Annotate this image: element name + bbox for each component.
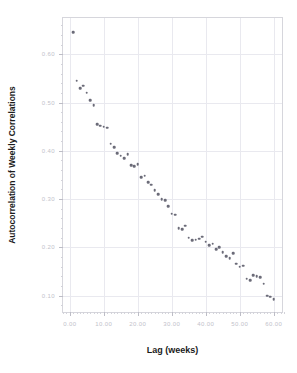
data-point [181,228,184,231]
x-axis-minor-tick [66,312,67,314]
x-axis-minor-tick [270,312,271,314]
y-tick-label: 0.50 [42,100,55,106]
x-axis-minor-tick [63,312,64,314]
data-point [133,165,136,168]
x-tick-label: 0.00 [63,321,76,327]
x-tick-label: 60.00 [265,321,282,327]
x-axis-minor-tick [199,312,200,314]
data-point [171,212,174,215]
x-tick-label: 30.00 [163,321,180,327]
data-point [208,244,211,247]
x-axis-minor-tick [189,312,190,314]
data-point [198,237,201,240]
data-point [154,189,157,192]
y-gridline [63,103,282,104]
x-axis-minor-tick [192,312,193,314]
data-point [235,262,238,265]
data-point [191,239,194,242]
x-axis-minor-tick [185,312,186,314]
data-point [245,277,248,280]
x-axis-minor-tick [80,312,81,314]
x-axis-minor-tick [145,312,146,314]
y-axis-minor-tick [61,286,63,287]
x-axis-minor-tick [236,312,237,314]
data-point [201,235,204,238]
x-axis-minor-tick [179,312,180,314]
data-point [225,255,228,258]
x-tick-label: 10.00 [95,321,112,327]
y-gridline [63,296,282,297]
data-point [174,213,177,216]
x-axis-minor-tick [247,312,248,314]
data-point [160,198,163,201]
data-point [232,252,235,255]
x-axis-tick [206,312,207,316]
y-axis-minor-tick [61,228,63,229]
y-axis-minor-tick [61,276,63,277]
x-axis-minor-tick [196,312,197,314]
y-axis-minor-tick [61,238,63,239]
data-point [194,238,197,241]
y-gridline [63,247,282,248]
x-axis-minor-tick [97,312,98,314]
data-point [89,99,92,102]
x-gridline [206,18,207,312]
x-axis-minor-tick [260,312,261,314]
x-axis-minor-tick [73,312,74,314]
y-gridline [63,199,282,200]
data-point [79,87,82,90]
data-point [256,275,259,278]
plot-area: 0.0010.0020.0030.0040.0050.0060.00 0.100… [62,17,283,313]
y-axis-minor-tick [61,209,63,210]
data-point [273,298,276,301]
x-axis-tick [274,312,275,316]
y-gridline [63,54,282,55]
data-point [82,84,85,87]
x-axis-minor-tick [114,312,115,314]
data-point [143,175,146,178]
x-axis-minor-tick [281,312,282,314]
x-axis-minor-tick [175,312,176,314]
data-point [140,176,143,179]
y-axis-tick [59,296,63,297]
x-axis-minor-tick [226,312,227,314]
x-axis-minor-tick [250,312,251,314]
data-point [137,163,140,166]
y-axis-minor-tick [61,189,63,190]
y-axis-minor-tick [61,305,63,306]
x-axis-minor-tick [90,312,91,314]
data-point [96,123,99,126]
x-gridline [70,18,71,312]
data-point [75,79,78,82]
y-tick-label: 0.30 [42,196,55,202]
data-point [188,236,191,239]
x-tick-label: 40.00 [197,321,214,327]
y-axis-minor-tick [61,45,63,46]
data-point [177,227,180,230]
x-axis-minor-tick [209,312,210,314]
y-axis-minor-tick [61,83,63,84]
x-axis-title: Lag (weeks) [62,345,283,355]
y-axis-minor-tick [61,218,63,219]
data-point [259,276,262,279]
x-axis-minor-tick [158,312,159,314]
data-point [211,242,214,245]
x-axis-minor-tick [284,312,285,314]
x-tick-label: 50.00 [231,321,248,327]
data-point [262,282,265,285]
y-axis-minor-tick [61,170,63,171]
x-gridline [172,18,173,312]
x-axis-minor-tick [111,312,112,314]
data-point [242,264,245,267]
scatter-chart-figure: 0.0010.0020.0030.0040.0050.0060.00 0.100… [0,0,297,373]
y-axis-minor-tick [61,64,63,65]
x-axis-minor-tick [168,312,169,314]
data-point [215,248,218,251]
y-axis-title-text: Autocorrelation of Weekly Correlations [7,86,17,244]
x-axis-tick [172,312,173,316]
y-axis-minor-tick [61,131,63,132]
x-axis-minor-tick [253,312,254,314]
y-axis-tick [59,103,63,104]
x-axis-minor-tick [128,312,129,314]
x-gridline [274,18,275,312]
